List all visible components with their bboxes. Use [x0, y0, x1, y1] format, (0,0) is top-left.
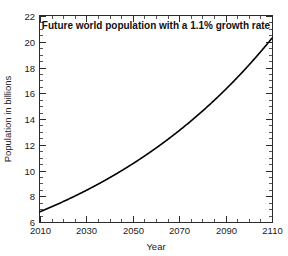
x-tick-label: 2070 [169, 225, 190, 236]
y-tick-label: 20 [24, 37, 35, 48]
chart-figure: 201020302050207020902110 681012141618202… [0, 0, 288, 256]
y-tick-label: 18 [24, 63, 35, 74]
x-axis-title: Year [146, 241, 165, 252]
x-tick-label: 2110 [262, 225, 282, 236]
figure-background [0, 0, 288, 256]
chart-canvas: 201020302050207020902110 681012141618202… [0, 0, 288, 256]
x-tick-label: 2050 [123, 225, 144, 236]
y-tick-label: 14 [24, 114, 35, 125]
x-tick-label: 2090 [216, 225, 237, 236]
y-tick-label: 16 [24, 88, 35, 99]
y-tick-label: 6 [30, 217, 35, 228]
y-tick-label: 12 [24, 140, 35, 151]
y-tick-label: 8 [30, 191, 35, 202]
x-tick-label: 2030 [76, 225, 97, 236]
y-tick-label: 10 [24, 166, 35, 177]
y-axis-title: Population in billions [2, 75, 13, 162]
chart-title: Future world population with a 1.1% grow… [42, 20, 271, 31]
y-tick-label: 22 [24, 11, 35, 22]
